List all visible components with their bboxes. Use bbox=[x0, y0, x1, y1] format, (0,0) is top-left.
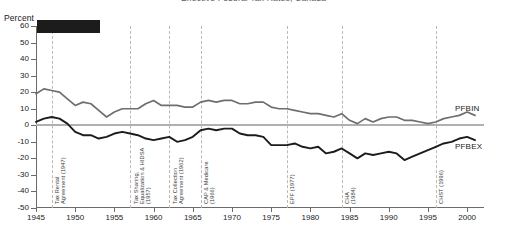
series-line-pfbin bbox=[36, 89, 475, 124]
chart-root: Effective Federal Tax Rates, Canada Perc… bbox=[0, 0, 507, 234]
series-line-pfbex bbox=[36, 117, 475, 160]
series-label-pfbex: PFBEX bbox=[455, 142, 482, 151]
redaction-bar bbox=[37, 20, 100, 33]
series-lines bbox=[0, 0, 507, 234]
series-label-pfbin: PFBIN bbox=[455, 104, 480, 113]
